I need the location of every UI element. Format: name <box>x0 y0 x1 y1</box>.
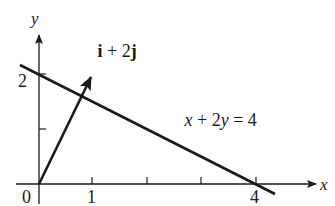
vector-label-mid: + 2 <box>103 41 131 61</box>
line-label-plus2: + 2 <box>193 110 221 130</box>
line-label-eq4: = 4 <box>229 110 257 130</box>
vector-label-j: j <box>130 41 137 61</box>
vector-label: i + 2j <box>66 41 159 61</box>
y-tick-label-2: 2 <box>18 71 27 91</box>
x-axis-label: x <box>319 175 328 194</box>
x-axis <box>16 177 316 184</box>
x-tick-label-4: 4 <box>250 187 259 206</box>
line-label-y: y <box>219 110 229 130</box>
vector-i-plus-2j <box>39 77 91 184</box>
line-label-x: x <box>184 110 193 130</box>
x-tick-label-1: 1 <box>87 187 96 206</box>
normal-vector-diagram: y x 0 1 4 2 i + 2j x + 2y = 4 <box>0 0 335 206</box>
line-equation-label: x + 2y = 4 <box>153 110 279 130</box>
origin-label: 0 <box>22 187 31 206</box>
y-axis-label: y <box>29 9 39 28</box>
